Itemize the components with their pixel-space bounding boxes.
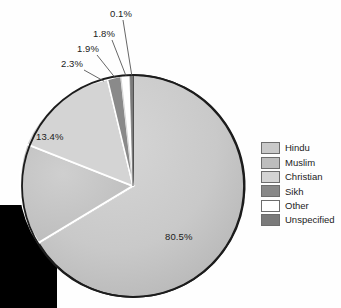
legend-item-muslim: Muslim — [261, 155, 335, 169]
leader-line-other — [112, 40, 126, 76]
legend-item-christian: Christian — [261, 170, 335, 184]
legend-swatch-christian — [261, 171, 280, 183]
legend-item-sikh: Sikh — [261, 184, 335, 198]
legend-label-christian: Christian — [285, 172, 323, 182]
leader-line-christian — [84, 70, 104, 81]
legend-swatch-sikh — [261, 185, 280, 197]
pct-label-muslim: 13.4% — [36, 131, 63, 142]
pct-label-other: 1.8% — [93, 28, 115, 39]
legend-item-unspecified: Unspecified — [261, 213, 335, 227]
legend-label-sikh: Sikh — [285, 187, 303, 197]
legend-item-other: Other — [261, 199, 335, 213]
pct-label-sikh: 1.9% — [77, 43, 99, 54]
leader-line-sikh — [97, 55, 115, 78]
legend-label-muslim: Muslim — [285, 158, 315, 168]
legend-swatch-hindu — [261, 142, 280, 154]
pct-label-hindu: 80.5% — [165, 231, 192, 242]
legend-item-hindu: Hindu — [261, 141, 335, 155]
legend-label-hindu: Hindu — [285, 143, 310, 153]
legend-swatch-unspecified — [261, 214, 280, 226]
legend-label-unspecified: Unspecified — [285, 215, 335, 225]
legend-swatch-muslim — [261, 157, 280, 169]
pct-label-christian: 2.3% — [61, 58, 83, 69]
pct-label-unspecified: 0.1% — [110, 8, 132, 19]
leader-line-unspecified — [123, 20, 132, 76]
legend-label-other: Other — [285, 201, 309, 211]
legend: Hindu Muslim Christian Sikh Other Unspec… — [261, 141, 335, 227]
pie-chart-figure: 0.1% 1.8% 1.9% 2.3% 13.4% 80.5% Hindu Mu… — [0, 0, 341, 308]
legend-swatch-other — [261, 200, 280, 212]
